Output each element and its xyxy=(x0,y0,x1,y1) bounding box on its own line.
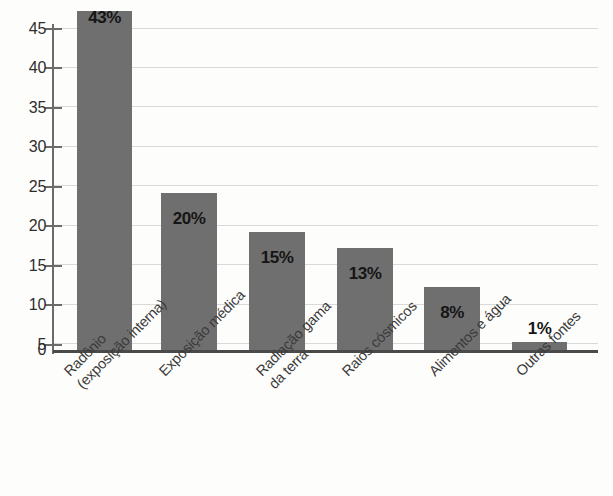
y-tick-label-35: 35 xyxy=(12,99,46,117)
x-axis-line xyxy=(53,350,598,353)
y-tick-25 xyxy=(45,186,62,188)
y-tick-40 xyxy=(45,67,62,69)
y-tick-20 xyxy=(45,225,62,227)
y-tick-label-0: 0 xyxy=(12,341,46,359)
bar-value-radiacao-gama: 15% xyxy=(249,248,305,268)
y-tick-5 xyxy=(45,344,62,346)
gridline-45 xyxy=(53,28,598,29)
y-tick-label-10: 10 xyxy=(12,296,46,314)
y-tick-15 xyxy=(45,265,62,267)
gridline-25 xyxy=(53,185,598,186)
gridline-40 xyxy=(53,67,598,68)
y-tick-label-15: 15 xyxy=(12,257,46,275)
y-tick-label-45: 45 xyxy=(12,20,46,38)
gridline-35 xyxy=(53,106,598,107)
bar-value-radonio: 43% xyxy=(77,8,132,28)
bar-value-exposicao-medica: 20% xyxy=(161,209,217,229)
bar-value-raios-cosmicos: 13% xyxy=(337,264,393,284)
y-tick-35 xyxy=(45,107,62,109)
y-tick-label-25: 25 xyxy=(12,178,46,196)
gridline-20 xyxy=(53,225,598,226)
y-tick-10 xyxy=(45,304,62,306)
y-tick-45 xyxy=(45,28,62,30)
y-tick-label-20: 20 xyxy=(12,217,46,235)
y-tick-label-30: 30 xyxy=(12,138,46,156)
bar-chart: 45 40 35 30 25 20 15 10 5 0 43% 20% 15% … xyxy=(0,0,613,496)
gridline-30 xyxy=(53,146,598,147)
bar-radonio xyxy=(77,11,132,350)
y-tick-30 xyxy=(45,146,62,148)
y-tick-label-40: 40 xyxy=(12,59,46,77)
gridline-15 xyxy=(53,264,598,265)
